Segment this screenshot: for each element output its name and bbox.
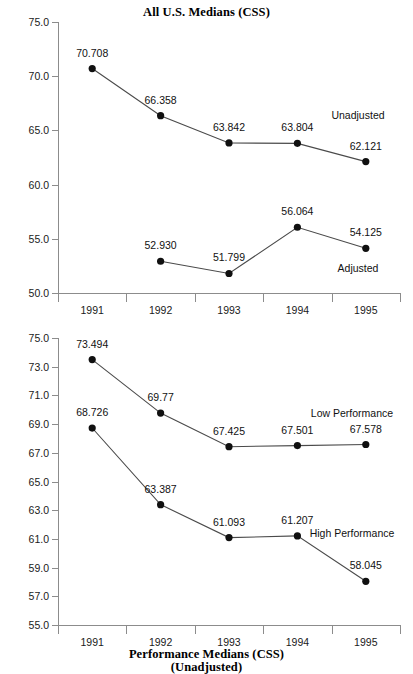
- y-tick-label: 57.0: [29, 590, 50, 602]
- x-tick-label-1992: 1992: [149, 304, 173, 316]
- y-tick-label: 55.0: [29, 619, 50, 631]
- data-point-low-performance-1991: [89, 356, 96, 363]
- data-label-low-performance-1992: 69.77: [147, 391, 173, 403]
- data-point-high-performance-1995: [362, 578, 369, 585]
- data-label-high-performance-1995: 58.045: [350, 559, 382, 571]
- y-tick-label: 67.0: [29, 447, 50, 459]
- data-point-high-performance-1992: [157, 501, 164, 508]
- plot-area-all-us-medians: 75.070.065.060.055.050.01991199219931994…: [0, 0, 413, 320]
- data-point-adjusted-1994: [294, 224, 301, 231]
- y-tick-label: 73.0: [29, 361, 50, 373]
- data-point-unadjusted-1991: [89, 65, 96, 72]
- y-tick-label: 61.0: [29, 533, 50, 545]
- y-tick-label: 63.0: [29, 504, 50, 516]
- data-point-adjusted-1993: [225, 270, 232, 277]
- data-point-high-performance-1991: [89, 424, 96, 431]
- data-point-adjusted-1992: [157, 258, 164, 265]
- y-tick-label: 50.0: [29, 287, 50, 299]
- series-annotation-unadjusted: Unadjusted: [331, 109, 384, 121]
- data-point-low-performance-1995: [362, 441, 369, 448]
- y-tick-label: 65.0: [29, 124, 50, 136]
- chart-title-line2: (Unadjusted): [0, 661, 413, 674]
- x-tick-label-1992: 1992: [149, 636, 173, 648]
- y-tick-label: 75.0: [29, 16, 50, 28]
- x-tick-label-1991: 1991: [81, 304, 105, 316]
- data-point-adjusted-1995: [362, 245, 369, 252]
- data-label-unadjusted-1992: 66.358: [145, 94, 177, 106]
- data-point-high-performance-1993: [225, 534, 232, 541]
- data-label-adjusted-1994: 56.064: [281, 205, 313, 217]
- data-label-unadjusted-1991: 70.708: [76, 47, 108, 59]
- data-point-low-performance-1992: [157, 409, 164, 416]
- data-label-adjusted-1993: 51.799: [213, 251, 245, 263]
- y-tick-label: 69.0: [29, 418, 50, 430]
- chart-all-us-medians: All U.S. Medians (CSS) 75.070.065.060.05…: [0, 0, 413, 320]
- y-tick-label: 60.0: [29, 179, 50, 191]
- chart-title-line1: Performance Medians (CSS): [129, 647, 284, 661]
- data-label-high-performance-1994: 61.207: [281, 514, 313, 526]
- y-tick-label: 55.0: [29, 233, 50, 245]
- data-label-low-performance-1995: 67.578: [350, 423, 382, 435]
- data-point-unadjusted-1994: [294, 140, 301, 147]
- data-point-unadjusted-1995: [362, 158, 369, 165]
- y-tick-label: 75.0: [29, 332, 50, 344]
- data-label-low-performance-1993: 67.425: [213, 425, 245, 437]
- data-label-low-performance-1991: 73.494: [76, 338, 108, 350]
- x-tick-label-1991: 1991: [81, 636, 105, 648]
- data-label-adjusted-1992: 52.930: [145, 239, 177, 251]
- y-tick-label: 71.0: [29, 389, 50, 401]
- chart-performance-medians: Performance Medians (CSS) (Unadjusted) 7…: [0, 320, 413, 649]
- x-tick-label-1995: 1995: [354, 304, 378, 316]
- data-label-unadjusted-1995: 62.121: [350, 140, 382, 152]
- x-tick-label-1993: 1993: [217, 636, 241, 648]
- series-annotation-adjusted: Adjusted: [338, 262, 379, 274]
- data-point-low-performance-1993: [225, 443, 232, 450]
- series-annotation-low-performance: Low Performance: [311, 407, 393, 419]
- series-line-high-performance: [92, 428, 366, 581]
- data-point-high-performance-1994: [294, 532, 301, 539]
- plot-area-performance-medians: 75.073.071.069.067.065.063.061.059.057.0…: [0, 320, 413, 649]
- x-tick-label-1994: 1994: [286, 304, 310, 316]
- data-label-unadjusted-1994: 63.804: [281, 121, 313, 133]
- y-tick-label: 59.0: [29, 562, 50, 574]
- data-label-adjusted-1995: 54.125: [350, 226, 382, 238]
- y-tick-label: 70.0: [29, 70, 50, 82]
- series-line-unadjusted: [92, 69, 366, 162]
- data-point-unadjusted-1992: [157, 112, 164, 119]
- x-tick-label-1993: 1993: [217, 304, 241, 316]
- data-label-low-performance-1994: 67.501: [281, 424, 313, 436]
- x-tick-label-1994: 1994: [286, 636, 310, 648]
- data-label-high-performance-1991: 68.726: [76, 406, 108, 418]
- series-annotation-high-performance: High Performance: [310, 527, 395, 539]
- chart-title-performance-medians: Performance Medians (CSS) (Unadjusted): [0, 648, 413, 674]
- x-tick-label-1995: 1995: [354, 636, 378, 648]
- data-point-low-performance-1994: [294, 442, 301, 449]
- y-tick-label: 65.0: [29, 476, 50, 488]
- series-line-adjusted: [161, 227, 366, 273]
- data-label-high-performance-1993: 61.093: [213, 516, 245, 528]
- data-label-unadjusted-1993: 63.842: [213, 121, 245, 133]
- data-label-high-performance-1992: 63.387: [145, 483, 177, 495]
- data-point-unadjusted-1993: [225, 139, 232, 146]
